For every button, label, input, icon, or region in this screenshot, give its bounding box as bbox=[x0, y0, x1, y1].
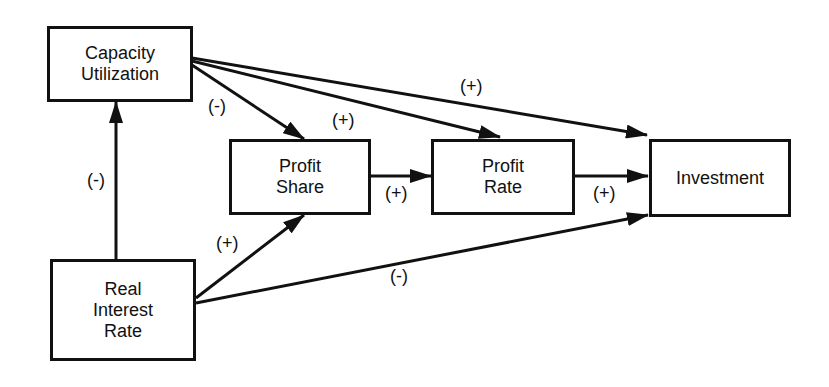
node-label: Capacity Utilization bbox=[81, 43, 159, 85]
node-investment: Investment bbox=[649, 139, 791, 217]
edge-rir-to-inv bbox=[196, 215, 648, 303]
sign-cu-to-inv: (+) bbox=[460, 76, 483, 96]
edge-cu-to-inv bbox=[192, 58, 647, 135]
node-real-interest-rate: Real Interest Rate bbox=[50, 259, 196, 361]
sign-rir-to-inv: (-) bbox=[390, 266, 408, 286]
node-label: Investment bbox=[676, 168, 764, 189]
node-profit-share: Profit Share bbox=[229, 139, 371, 215]
sign-pr-to-inv: (+) bbox=[593, 183, 616, 203]
node-capacity-utilization: Capacity Utilization bbox=[47, 26, 193, 102]
sign-cu-to-pr: (+) bbox=[332, 110, 355, 130]
sign-rir-to-ps: (+) bbox=[216, 233, 239, 253]
sign-ps-to-pr: (+) bbox=[385, 183, 408, 203]
node-label: Real Interest Rate bbox=[93, 279, 153, 342]
sign-cu-to-ps: (-) bbox=[208, 96, 226, 116]
node-profit-rate: Profit Rate bbox=[431, 139, 575, 215]
sign-rir-to-cu: (-) bbox=[87, 170, 105, 190]
node-label: Profit Share bbox=[276, 156, 324, 198]
node-label: Profit Rate bbox=[482, 156, 524, 198]
